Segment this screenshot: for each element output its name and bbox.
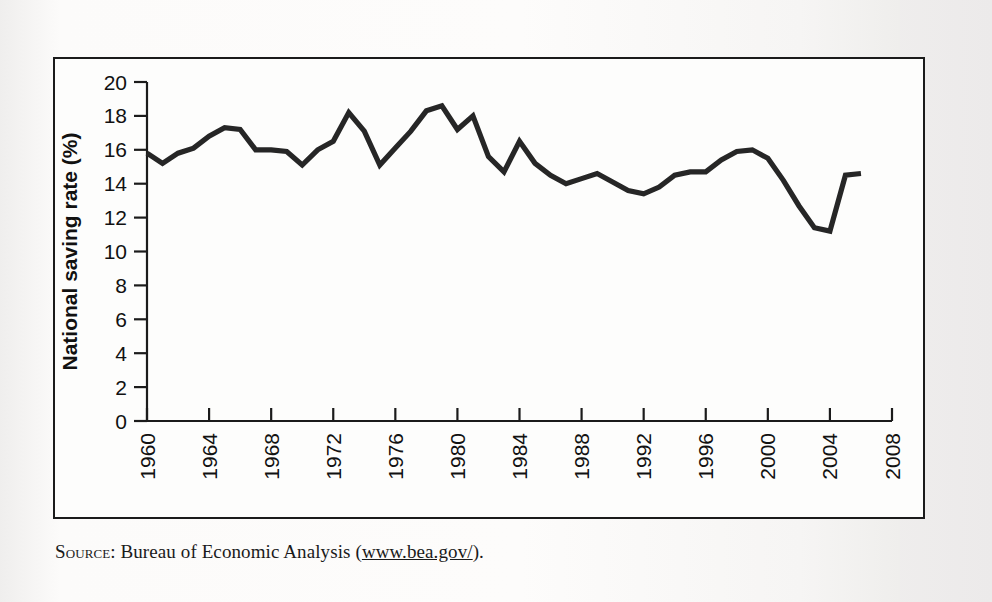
y-tick-label: 10 [104,240,127,263]
x-tick-label: 2008 [881,433,904,480]
x-tick-label: 1960 [136,433,159,480]
source-body: Bureau of Economic Analysis ( [116,541,362,562]
x-tick-label: 1972 [322,433,345,480]
y-tick-label: 8 [115,274,127,297]
x-tick-label: 1996 [694,433,717,480]
x-tick-label: 1964 [198,433,221,480]
x-tick-label: 1984 [508,433,531,480]
y-tick-label: 0 [115,410,127,433]
national-saving-rate-line-chart: 0246810121416182019601964196819721976198… [55,59,927,521]
x-tick-label: 1980 [446,433,469,480]
source-label: Source: [55,541,116,562]
data-series-national-saving-rate [147,106,861,231]
y-tick-label: 12 [104,206,127,229]
x-tick-label: 2000 [756,433,779,480]
y-axis-title: National saving rate (%) [58,132,81,370]
page-background: 0246810121416182019601964196819721976198… [0,0,992,602]
y-tick-label: 4 [115,342,127,365]
chart-plot-area: 0246810121416182019601964196819721976198… [55,59,927,521]
y-tick-label: 6 [115,308,127,331]
source-url-link[interactable]: www.bea.gov/ [362,541,473,562]
source-note: Source: Bureau of Economic Analysis (www… [55,541,484,563]
source-suffix: ). [473,541,484,562]
y-tick-label: 20 [104,71,127,94]
y-tick-label: 18 [104,104,127,127]
figure-frame: 0246810121416182019601964196819721976198… [53,57,925,519]
axis-spines [147,82,892,421]
x-tick-label: 1976 [384,433,407,480]
y-tick-label: 14 [104,172,128,195]
x-tick-label: 2004 [818,433,841,480]
y-tick-label: 16 [104,138,127,161]
x-tick-label: 1968 [260,433,283,480]
x-tick-label: 1992 [632,433,655,480]
x-tick-label: 1988 [570,433,593,480]
y-tick-label: 2 [115,376,127,399]
